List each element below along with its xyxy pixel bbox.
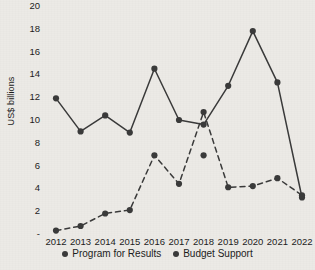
- y-axis-tick-labels: 2018161412108642-: [14, 0, 40, 270]
- y-axis-tick-label: 4: [14, 184, 40, 194]
- x-axis-tick-label: 2013: [70, 236, 91, 247]
- x-axis-tick-label: 2015: [119, 236, 140, 247]
- x-axis-tick-label: 2021: [267, 236, 288, 247]
- x-axis-tick-label: 2016: [144, 236, 165, 247]
- y-axis-tick-label: 2: [14, 206, 40, 216]
- y-axis-tick-label: -: [14, 229, 40, 239]
- y-axis-tick-label: 20: [14, 1, 40, 11]
- y-axis-tick-label: 12: [14, 92, 40, 102]
- x-axis-tick-label: 2018: [193, 236, 214, 247]
- x-axis-tick-label: 2012: [45, 236, 66, 247]
- y-axis-tick-label: 6: [14, 161, 40, 171]
- legend-marker-icon: [173, 251, 179, 257]
- y-axis-tick-label: 18: [14, 24, 40, 34]
- legend-item-program-for-results[interactable]: Program for Results: [62, 248, 161, 259]
- legend-marker-icon: [62, 251, 68, 257]
- chart-figure: US$ billions 2018161412108642- 201220132…: [0, 0, 315, 270]
- legend-item-budget-support[interactable]: Budget Support: [173, 248, 253, 259]
- y-axis-tick-label: 16: [14, 47, 40, 57]
- y-axis-tick-label: 8: [14, 138, 40, 148]
- x-axis-tick-label: 2022: [291, 236, 312, 247]
- legend-label: Budget Support: [183, 248, 253, 259]
- chart-legend: Program for Results Budget Support: [0, 248, 315, 259]
- legend-label: Program for Results: [72, 248, 161, 259]
- x-axis-tick-labels: 2012201320142015201620172018201920202021…: [44, 0, 310, 270]
- y-axis-tick-label: 10: [14, 115, 40, 125]
- x-axis-tick-label: 2017: [168, 236, 189, 247]
- x-axis-tick-label: 2019: [218, 236, 239, 247]
- y-axis-tick-label: 14: [14, 70, 40, 80]
- x-axis-tick-label: 2020: [242, 236, 263, 247]
- x-axis-tick-label: 2014: [95, 236, 116, 247]
